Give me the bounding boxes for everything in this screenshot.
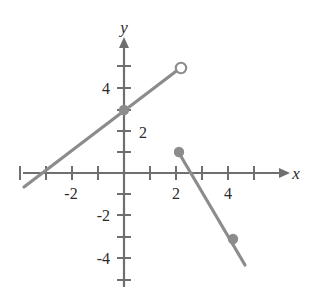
y-axis-arrow-icon <box>119 37 129 48</box>
segment-1-open-endpoint-marker <box>176 63 186 73</box>
segment-2-closed-endpoint-marker-upper <box>174 147 184 157</box>
y-tick-label--4: -4 <box>97 250 110 267</box>
segment-2-line <box>179 153 245 265</box>
x-axis-label: x <box>291 164 300 183</box>
x-tick-label-2: 2 <box>172 185 180 202</box>
segment-2-closed-endpoint-marker-lower <box>228 234 238 244</box>
y-axis-label: y <box>118 18 128 37</box>
coordinate-plane-svg: -2 2 4 4 2 -2 -4 x y <box>0 0 316 303</box>
y-tick-label--2: -2 <box>97 207 110 224</box>
y-tick-label-4: 4 <box>102 80 110 97</box>
segment-2-group <box>174 147 245 265</box>
segment-1-closed-endpoint-marker <box>119 105 129 115</box>
x-tick-label--2: -2 <box>64 185 77 202</box>
axes-group <box>23 37 290 287</box>
graph-figure: -2 2 4 4 2 -2 -4 x y <box>0 0 316 303</box>
x-axis-arrow-icon <box>279 168 290 178</box>
y-tick-label-2: 2 <box>139 124 147 141</box>
x-tick-label-4: 4 <box>224 185 232 202</box>
